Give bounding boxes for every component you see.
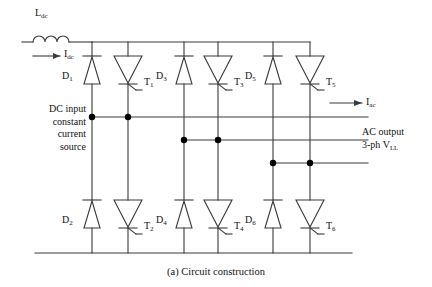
figure-root: Ldc Idc Iac DC input constant current so… <box>0 0 432 287</box>
device-label-d5-sub: 5 <box>252 75 256 83</box>
device-label-d6: D6 <box>245 214 256 227</box>
dc-input-line-3: current <box>0 128 86 141</box>
ac-output-voltage-text: 3-ph V <box>362 139 390 150</box>
device-label-d3: D3 <box>156 70 167 83</box>
ac-output-line-1: AC output <box>362 126 432 139</box>
dc-input-line-1: DC input <box>0 103 86 116</box>
dc-input-line-2: constant <box>0 116 86 129</box>
device-label-t6: T6 <box>326 220 336 233</box>
node-phase-b-col3 <box>181 137 187 143</box>
dc-current-label: Idc <box>64 48 74 61</box>
node-phase-c-col6 <box>307 160 313 166</box>
ac-output-label: AC output 3-ph VLL <box>362 126 432 152</box>
device-label-t3-sub: 3 <box>240 81 244 89</box>
device-label-d2: D2 <box>62 214 73 227</box>
node-phase-a-col2 <box>125 114 131 120</box>
device-label-d2-sub: 2 <box>69 219 73 227</box>
device-label-d4: D4 <box>156 214 167 227</box>
device-label-d1-sub: 1 <box>69 75 73 83</box>
device-label-d5: D5 <box>245 70 256 83</box>
device-label-t5: T5 <box>326 76 336 89</box>
device-label-d1: D1 <box>62 70 73 83</box>
dc-current-arrow-icon <box>33 53 60 59</box>
device-label-t5-sub: 5 <box>332 81 336 89</box>
dc-input-source-label: DC input constant current source <box>0 103 86 153</box>
ac-current-arrow-icon <box>330 100 362 106</box>
node-phase-c-col5 <box>270 160 276 166</box>
device-label-t1-sub: 1 <box>150 81 154 89</box>
node-phase-a-col1 <box>89 114 95 120</box>
ac-current-label-sub: ac <box>369 101 375 109</box>
ac-output-line-2: 3-ph VLL <box>362 139 432 152</box>
device-label-d3-sub: 3 <box>163 75 167 83</box>
device-label-t2: T2 <box>144 220 154 233</box>
dc-input-line-4: source <box>0 141 86 154</box>
device-label-t2-sub: 2 <box>150 225 154 233</box>
inductor-label-sub: dc <box>41 12 48 20</box>
device-label-t4-sub: 4 <box>240 225 244 233</box>
dc-current-label-sub: dc <box>67 53 74 61</box>
device-label-t1: T1 <box>144 76 154 89</box>
diode-d2-symbol <box>83 200 101 228</box>
device-label-t6-sub: 6 <box>332 225 336 233</box>
diode-d3-symbol <box>175 56 193 84</box>
inductor-coil-icon <box>33 36 69 42</box>
device-label-t4: T4 <box>234 220 244 233</box>
diode-d5-symbol <box>264 56 282 84</box>
ac-current-label: Iac <box>366 96 376 109</box>
diode-d4-symbol <box>175 200 193 228</box>
figure-caption: (a) Circuit construction <box>0 266 432 277</box>
device-label-t3: T3 <box>234 76 244 89</box>
device-label-d6-sub: 6 <box>252 219 256 227</box>
dc-input-inductor-branch <box>22 36 92 42</box>
diode-d1-symbol <box>83 56 101 84</box>
device-label-d4-sub: 4 <box>163 219 167 227</box>
ac-output-voltage-sub: LL <box>390 143 398 150</box>
node-phase-b-col4 <box>215 137 221 143</box>
diode-d6-symbol <box>264 200 282 228</box>
inductor-label: Ldc <box>35 7 48 20</box>
